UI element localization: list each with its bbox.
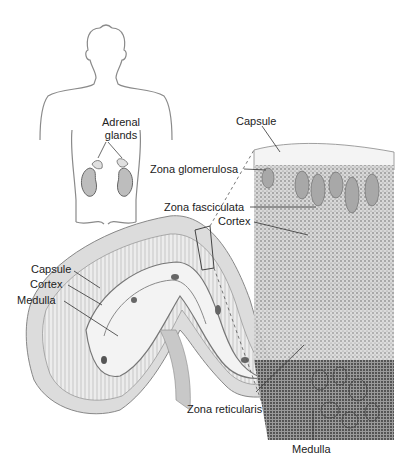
histology-column (254, 143, 394, 440)
capsule-top-label: Capsule (236, 115, 276, 127)
adrenal-glands-label-1: Adrenal (86, 116, 156, 128)
cortex-right-label: Cortex (218, 215, 250, 227)
medulla-bottom-label: Medulla (292, 443, 331, 455)
adrenal-glands-label-2: glands (86, 129, 156, 141)
cortex-left-label: Cortex (30, 278, 62, 290)
zona-glomerulosa-label: Zona glomerulosa (150, 163, 238, 175)
capsule-left-label: Capsule (31, 263, 71, 275)
adrenal-illustration (0, 0, 407, 466)
kidneys (81, 159, 132, 197)
zona-reticularis-label: Zona reticularis (187, 403, 262, 415)
medulla-left-label: Medulla (17, 294, 56, 306)
zona-fasciculata-label: Zona fasciculata (164, 201, 244, 213)
